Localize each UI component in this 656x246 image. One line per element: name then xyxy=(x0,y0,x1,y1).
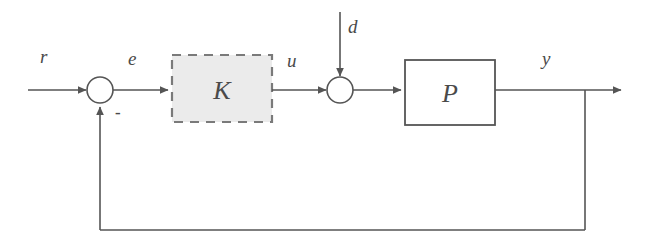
signal-label-control: u xyxy=(287,50,297,72)
signal-label-error: e xyxy=(128,48,136,70)
signal-label-output: y xyxy=(542,48,550,70)
block-diagram: K P r e u d y - xyxy=(0,0,656,246)
controller-block-label: K xyxy=(212,76,232,105)
signal-label-disturbance: d xyxy=(348,16,358,38)
disturbance-summing-junction xyxy=(327,77,353,103)
signal-label-reference: r xyxy=(40,46,47,68)
diagram-canvas: K P xyxy=(0,0,656,246)
negative-feedback-sign: - xyxy=(115,104,121,121)
plant-block-label: P xyxy=(441,79,458,108)
error-summing-junction xyxy=(87,77,113,103)
